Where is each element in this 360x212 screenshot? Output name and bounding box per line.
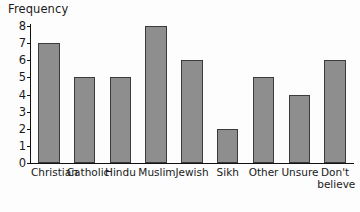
y-axis-tick-label: 5 xyxy=(4,70,26,84)
y-axis-tick-mark xyxy=(27,146,31,147)
x-axis-tick-label: Jewish xyxy=(174,167,210,179)
y-axis-tick-label: 3 xyxy=(4,105,26,119)
y-axis-tick-label: 8 xyxy=(4,19,26,33)
y-axis-tick-mark xyxy=(27,112,31,113)
bar-chart: Frequency 012345678 ChristianCatholicHin… xyxy=(0,0,360,212)
y-axis-tick-mark xyxy=(27,43,31,44)
y-axis-tick-label: 6 xyxy=(4,53,26,67)
y-axis-tick-mark xyxy=(27,77,31,78)
y-axis-tick-label: 4 xyxy=(4,88,26,102)
x-axis-tick-label: Hindu xyxy=(103,167,139,179)
y-axis-tick-group: 012345678 xyxy=(0,0,26,212)
y-axis-tick-mark xyxy=(27,163,31,164)
x-axis-tick-label: Catholic xyxy=(67,167,103,179)
x-axis-tick-label: Other xyxy=(246,167,282,179)
y-axis-tick-mark xyxy=(27,26,31,27)
y-axis-tick-label: 2 xyxy=(4,122,26,136)
x-axis-tick-label: Muslim xyxy=(138,167,174,179)
y-axis-tick-mark xyxy=(27,60,31,61)
y-axis-tick-label: 0 xyxy=(4,156,26,170)
x-axis-tick-label: Sikh xyxy=(210,167,246,179)
y-axis-tick-mark xyxy=(27,95,31,96)
x-axis-tick-group: ChristianCatholicHinduMuslimJewishSikhOt… xyxy=(31,0,353,212)
y-axis-tick-label: 7 xyxy=(4,36,26,50)
y-axis-tick-label: 1 xyxy=(4,139,26,153)
x-axis-tick-label: Christian xyxy=(31,167,67,179)
y-axis-tick-mark xyxy=(27,129,31,130)
x-axis-tick-label: Don't believe xyxy=(317,167,353,190)
x-axis-tick-label: Unsure xyxy=(281,167,317,179)
